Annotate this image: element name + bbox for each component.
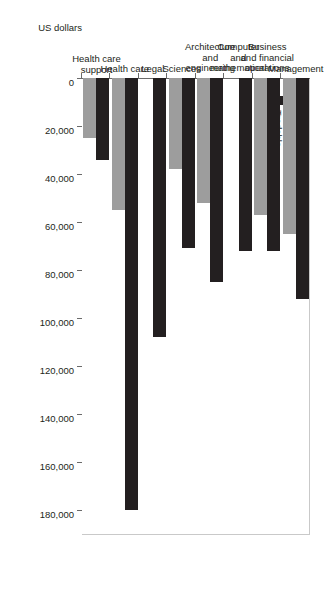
value-axis-tick — [77, 318, 82, 319]
value-axis-tick-label: 140,000 — [40, 413, 74, 424]
chart-canvas: US dollars Nontradable Tradable 020,0004… — [0, 0, 334, 594]
bar-nontradable — [112, 78, 125, 210]
value-axis-tick — [77, 222, 82, 223]
value-axis-tick — [77, 414, 82, 415]
bar-tradable — [239, 78, 252, 251]
panel-right-border — [82, 534, 310, 535]
value-axis-tick-label: 160,000 — [40, 461, 74, 472]
value-axis-tick — [77, 78, 82, 79]
value-axis-tick-label: 100,000 — [40, 317, 74, 328]
value-axis-tick — [77, 510, 82, 511]
value-axis-tick-label: 20,000 — [45, 125, 74, 136]
bar-tradable — [125, 78, 138, 510]
value-axis-tick-label: 40,000 — [45, 173, 74, 184]
value-axis-tick — [77, 366, 82, 367]
bar-tradable — [182, 78, 195, 248]
bar-tradable — [96, 78, 109, 160]
bar-tradable — [296, 78, 309, 299]
bar-tradable — [267, 78, 280, 251]
bar-tradable — [153, 78, 166, 337]
value-axis-tick-label: 80,000 — [45, 269, 74, 280]
bar-nontradable — [254, 78, 267, 215]
category-axis-tick — [252, 73, 253, 78]
value-axis-tick-label: 0 — [69, 77, 74, 88]
value-axis-tick — [77, 126, 82, 127]
bar-nontradable — [83, 78, 96, 138]
bar-nontradable — [169, 78, 182, 169]
value-axis-tick — [77, 270, 82, 271]
value-axis-tick — [77, 462, 82, 463]
value-axis-tick-label: 120,000 — [40, 365, 74, 376]
category-label: Health care support — [59, 53, 133, 74]
bar-nontradable — [197, 78, 210, 203]
value-axis-tick — [77, 174, 82, 175]
bar-tradable — [210, 78, 223, 282]
bar-nontradable — [283, 78, 296, 234]
plot-area: 020,00040,00060,00080,000100,000120,0001… — [82, 78, 310, 534]
value-axis-tick-label: 60,000 — [45, 221, 74, 232]
category-axis-tick — [224, 73, 225, 78]
value-axis-tick-label: 180,000 — [40, 509, 74, 520]
value-axis-title: US dollars — [38, 22, 82, 33]
